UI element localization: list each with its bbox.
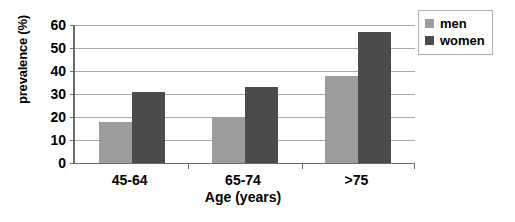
legend-item-label: women xyxy=(440,34,485,47)
bar-men-65-74 xyxy=(212,117,245,163)
y-axis-tick-label: 40 xyxy=(36,64,66,78)
legend-item-women[interactable]: women xyxy=(425,32,485,49)
bar-chart: prevalence (%) 0102030405060 45-6465-74>… xyxy=(0,0,515,222)
gridline xyxy=(75,163,415,164)
y-axis-tickmark xyxy=(70,163,75,164)
bar-men-45-64 xyxy=(99,122,132,163)
x-axis-tick-label: 65-74 xyxy=(225,172,261,188)
bar-men->75 xyxy=(325,76,358,163)
y-axis-title: prevalence (%) xyxy=(15,0,30,130)
legend-item-label: men xyxy=(440,17,467,30)
x-axis-tick-label: >75 xyxy=(344,172,368,188)
x-axis-separator-tick xyxy=(302,163,303,169)
bar-women-65-74 xyxy=(245,87,278,163)
y-axis-tick-label: 10 xyxy=(36,133,66,147)
chart-legend: menwomen xyxy=(418,10,493,55)
y-axis-tick-label: 0 xyxy=(36,156,66,170)
x-axis-tick-label: 45-64 xyxy=(112,172,148,188)
x-axis-separator-tick xyxy=(414,163,415,169)
y-axis-tick-label: 30 xyxy=(36,87,66,101)
bar-group xyxy=(188,25,301,163)
y-axis-tick-label: 60 xyxy=(36,18,66,32)
legend-swatch-icon xyxy=(425,36,434,45)
y-axis-tick-label: 50 xyxy=(36,41,66,55)
bar-group xyxy=(302,25,415,163)
legend-item-men[interactable]: men xyxy=(425,15,485,32)
legend-swatch-icon xyxy=(425,19,434,28)
x-axis-title: Age (years) xyxy=(73,189,413,205)
plot-area xyxy=(73,25,415,163)
bar-women-45-64 xyxy=(132,92,165,163)
y-axis-tick-labels: 0102030405060 xyxy=(32,0,66,222)
x-axis-separator-tick xyxy=(188,163,189,169)
bar-group xyxy=(75,25,188,163)
y-axis-tick-label: 20 xyxy=(36,110,66,124)
bar-women->75 xyxy=(358,32,391,163)
bars-layer xyxy=(75,25,415,163)
